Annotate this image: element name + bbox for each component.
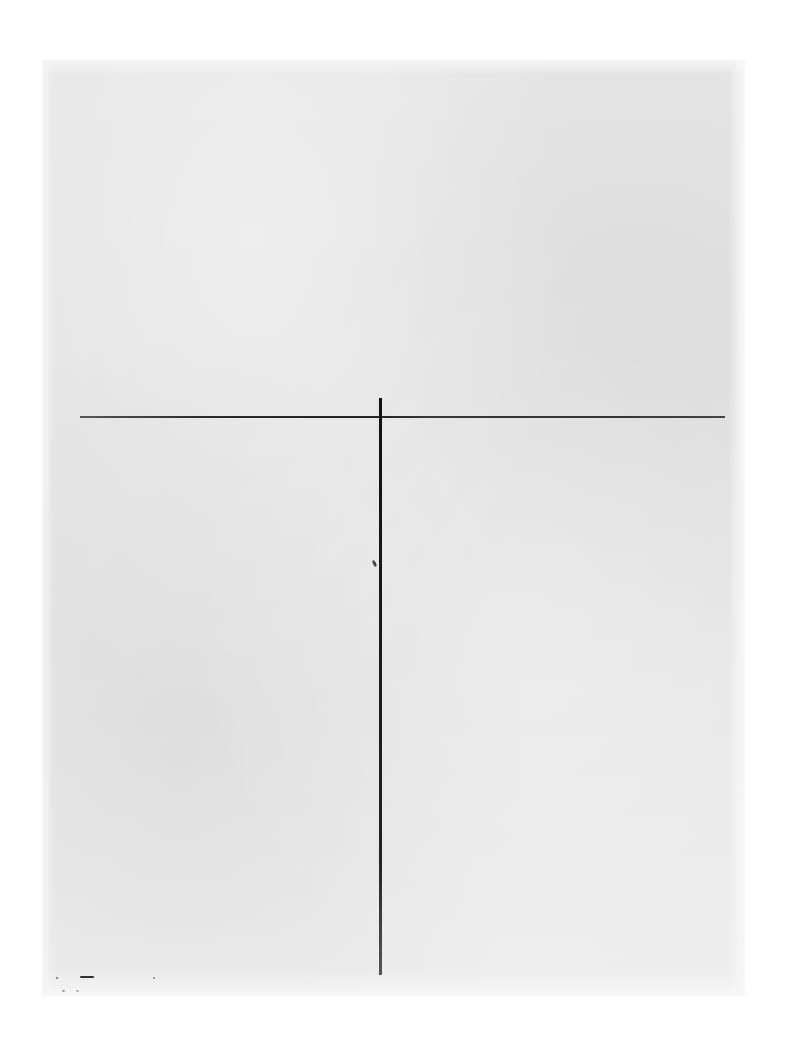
vertical-rule-line bbox=[379, 398, 382, 975]
sheet-edge-right bbox=[729, 60, 745, 996]
page-canvas bbox=[0, 0, 785, 1046]
speck-mark bbox=[76, 990, 79, 992]
sheet-edge-bottom bbox=[42, 970, 745, 996]
sheet-edge-left bbox=[42, 60, 52, 996]
speck-mark bbox=[56, 977, 58, 979]
bleed-through-text bbox=[200, 2, 340, 10]
bottom-left-dash-mark bbox=[80, 976, 94, 978]
horizontal-rule-line bbox=[80, 416, 725, 418]
speck-mark bbox=[62, 990, 65, 992]
paper-sheet bbox=[42, 60, 745, 996]
sheet-edge-top bbox=[42, 60, 745, 74]
speck-mark bbox=[153, 977, 155, 979]
